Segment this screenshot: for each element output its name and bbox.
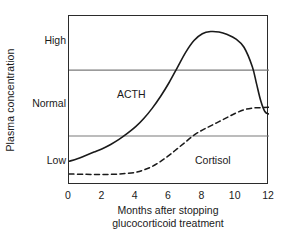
- gridlines: [69, 70, 269, 136]
- y-tick-label-low: Low: [18, 154, 66, 166]
- x-tick-label-12: 12: [262, 189, 274, 201]
- series-label-acth: ACTH: [117, 88, 146, 100]
- y-tick-label-high: High: [18, 34, 66, 46]
- x-tick-label-10: 10: [229, 189, 241, 201]
- x-tick-label-0: 0: [65, 189, 71, 201]
- curve-acth: [69, 31, 269, 161]
- plot-canvas: [69, 16, 269, 185]
- x-tick-label-6: 6: [165, 189, 171, 201]
- y-tick-label-normal: Normal: [18, 97, 66, 109]
- x-axis-title-line1: Months after stopping: [58, 204, 278, 217]
- x-axis-tick-labels: 024681012: [0, 189, 286, 203]
- plot-area: ACTH Cortisol: [68, 15, 268, 184]
- x-tick-label-2: 2: [98, 189, 104, 201]
- x-tick-label-8: 8: [198, 189, 204, 201]
- x-axis-title: Months after stopping glucocorticoid tre…: [58, 204, 278, 230]
- x-tick-label-4: 4: [132, 189, 138, 201]
- x-axis-title-line2: glucocorticoid treatment: [58, 217, 278, 230]
- data-series: [69, 31, 269, 174]
- chart-figure: Plasma concentration High Normal Low ACT…: [0, 0, 286, 238]
- series-label-cortisol: Cortisol: [195, 154, 231, 166]
- curve-cortisol: [69, 107, 269, 174]
